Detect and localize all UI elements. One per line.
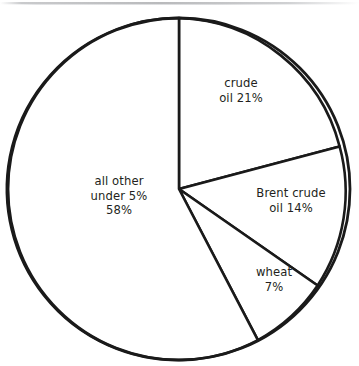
- pie-chart-graphic: [0, 0, 359, 366]
- pie-label-wheat: wheat 7%: [243, 265, 305, 294]
- pie-label-brent-crude-oil: Brent crude oil 14%: [239, 186, 343, 215]
- pie-label-brent-crude-oil-line2: oil 14%: [239, 201, 343, 216]
- pie-label-crude-oil-line2: oil 21%: [198, 91, 284, 106]
- pie-chart-figure: crude oil 21% Brent crude oil 14% wheat …: [0, 0, 359, 366]
- pie-label-all-other-line3: 58%: [63, 203, 175, 218]
- pie-label-all-other-line1: all other: [63, 174, 175, 189]
- pie-label-all-other: all other under 5% 58%: [63, 174, 175, 218]
- pie-label-brent-crude-oil-line1: Brent crude: [239, 186, 343, 201]
- pie-label-wheat-line1: wheat: [243, 265, 305, 280]
- pie-label-wheat-line2: 7%: [243, 280, 305, 295]
- pie-label-crude-oil: crude oil 21%: [198, 76, 284, 105]
- pie-label-crude-oil-line1: crude: [198, 76, 284, 91]
- pie-label-all-other-line2: under 5%: [63, 189, 175, 204]
